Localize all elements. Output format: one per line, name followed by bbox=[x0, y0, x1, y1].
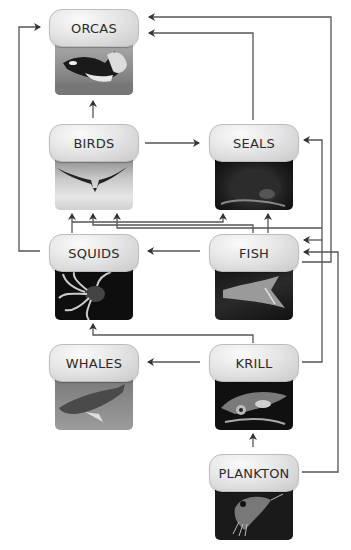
edge-squids-orcas bbox=[19, 27, 40, 251]
node-label: BIRDS bbox=[49, 124, 139, 162]
seal-image bbox=[215, 158, 293, 210]
fish-icon bbox=[215, 268, 293, 320]
krill-image bbox=[215, 378, 293, 430]
edge-krill-squids bbox=[93, 324, 253, 343]
node-label: SQUIDS bbox=[49, 234, 139, 272]
whale-icon bbox=[55, 378, 133, 430]
node-label: SEALS bbox=[209, 124, 299, 162]
edge-krill-birds bbox=[117, 214, 322, 228]
node-label: WHALES bbox=[49, 344, 139, 382]
bird-image bbox=[55, 158, 133, 210]
orca-image bbox=[55, 43, 133, 95]
squid-icon bbox=[55, 268, 133, 320]
node-label: PLANKTON bbox=[209, 454, 299, 492]
krill-icon bbox=[215, 378, 293, 430]
node-label: KRILL bbox=[209, 344, 299, 382]
node-label: ORCAS bbox=[49, 9, 139, 47]
edge-krill-seals bbox=[302, 140, 322, 362]
edge-seals-orcas bbox=[149, 33, 253, 120]
seal-icon bbox=[215, 158, 293, 210]
bird-icon bbox=[55, 158, 133, 210]
node-label: FISH bbox=[209, 234, 299, 272]
edge-squids-seals bbox=[72, 214, 223, 222]
plankton-image bbox=[215, 488, 293, 540]
plankton-icon bbox=[215, 488, 293, 540]
whale-image bbox=[55, 378, 133, 430]
squid-image bbox=[55, 268, 133, 320]
fish-image bbox=[215, 268, 293, 320]
orca-icon bbox=[55, 43, 133, 95]
